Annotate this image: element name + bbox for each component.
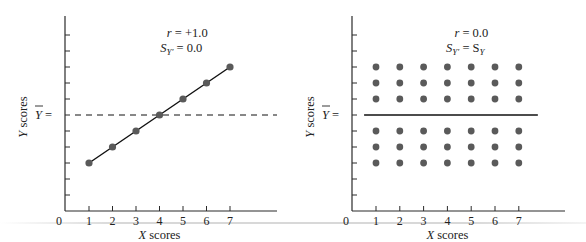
right-chart-panel: 01234567X scoresY scoresY =r = 0.0SY′ = …	[303, 16, 565, 242]
data-point	[420, 144, 427, 151]
left-chart-panel: 01234567X scoresY scoresY =r = +1.0SY′ =…	[16, 16, 277, 242]
data-point	[492, 96, 499, 103]
y-axis-title: Y scores	[303, 96, 317, 137]
data-point	[492, 160, 499, 167]
data-point	[420, 96, 427, 103]
y-axis-title: Y scores	[16, 96, 30, 137]
data-point	[515, 128, 522, 135]
x-axis-title: X scores	[425, 228, 468, 242]
x-tick-label-origin: 0	[343, 214, 349, 228]
data-point	[373, 128, 380, 135]
x-tick-label: 1	[373, 214, 379, 228]
data-point	[492, 64, 499, 71]
data-point	[492, 144, 499, 151]
data-point	[396, 128, 403, 135]
standard-error-annotation: SY′ = 0.0	[160, 41, 202, 57]
data-point	[85, 159, 92, 166]
data-point	[420, 80, 427, 87]
data-point	[396, 96, 403, 103]
x-tick-label: 6	[492, 214, 498, 228]
data-point	[420, 160, 427, 167]
data-point	[132, 127, 139, 134]
x-tick-label: 5	[468, 214, 474, 228]
x-tick-label: 4	[444, 214, 450, 228]
data-point	[373, 80, 380, 87]
data-point	[396, 160, 403, 167]
data-point	[373, 96, 380, 103]
data-point	[468, 128, 475, 135]
x-tick-label: 3	[133, 214, 139, 228]
x-tick-label: 2	[110, 214, 116, 228]
data-point	[468, 96, 475, 103]
data-point	[468, 144, 475, 151]
data-point	[444, 96, 451, 103]
x-tick-label-origin: 0	[56, 214, 62, 228]
x-axis-title: X scores	[137, 228, 180, 242]
data-point	[515, 96, 522, 103]
data-point	[492, 80, 499, 87]
data-point	[444, 144, 451, 151]
data-point	[420, 128, 427, 135]
data-point	[396, 144, 403, 151]
x-tick-label: 4	[157, 214, 163, 228]
y-mean-label: Y =	[35, 108, 52, 122]
data-point	[109, 143, 116, 150]
correlation-annotation: r = +1.0	[167, 26, 208, 40]
correlation-annotation: r = 0.0	[454, 26, 488, 40]
data-point	[373, 64, 380, 71]
data-point	[396, 64, 403, 71]
x-tick-label: 2	[397, 214, 403, 228]
x-tick-label: 6	[204, 214, 210, 228]
data-point	[179, 95, 186, 102]
data-point	[226, 63, 233, 70]
data-point	[203, 79, 210, 86]
data-point	[444, 64, 451, 71]
data-point	[515, 144, 522, 151]
data-point	[492, 128, 499, 135]
x-tick-label: 1	[86, 214, 92, 228]
data-point	[468, 64, 475, 71]
data-point	[468, 160, 475, 167]
x-tick-label: 7	[227, 214, 233, 228]
data-point	[444, 80, 451, 87]
y-mean-label: Y =	[322, 108, 339, 122]
data-point	[373, 144, 380, 151]
data-point	[373, 160, 380, 167]
data-point	[515, 80, 522, 87]
x-tick-label: 5	[180, 214, 186, 228]
correlation-charts: 01234567X scoresY scoresY =r = +1.0SY′ =…	[0, 0, 586, 242]
data-point	[515, 64, 522, 71]
data-point	[444, 160, 451, 167]
data-point	[515, 160, 522, 167]
x-tick-label: 3	[421, 214, 427, 228]
x-tick-label: 7	[516, 214, 522, 228]
data-point	[156, 111, 163, 118]
data-point	[420, 64, 427, 71]
data-point	[396, 80, 403, 87]
data-point	[468, 80, 475, 87]
standard-error-annotation: SY′ = SY	[446, 41, 486, 57]
data-point	[444, 128, 451, 135]
